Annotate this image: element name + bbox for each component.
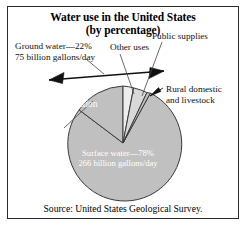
leader-arrow-rural-domestic: [150, 88, 161, 97]
label-ground-water-line-2: 75 billion gallons/day: [15, 52, 95, 63]
ground-water-bracket-arrow-right: [149, 68, 164, 79]
figure-source: Source: United States Geological Survey.: [8, 203, 238, 214]
label-ground-water: Ground water—22% 75 billion gallons/day: [15, 41, 95, 62]
label-irrigation: Irrigation: [62, 99, 97, 109]
pie-chart: [0, 0, 247, 229]
label-other-uses: Other uses: [110, 42, 149, 53]
figure-container: Water use in the United States (by perce…: [0, 0, 247, 229]
label-surface-water-line-2: 266 billion gallons/day: [58, 158, 178, 168]
label-rural-domestic: Rural domestic and livestock: [166, 84, 222, 105]
label-ground-water-line-1: Ground water—22%: [15, 41, 95, 52]
label-rural-line-2: and livestock: [166, 95, 222, 106]
label-surface-water-line-1: Surface water—78%: [58, 148, 178, 158]
label-public-supplies: Public supplies: [152, 31, 208, 42]
label-surface-water: Surface water—78% 266 billion gallons/da…: [58, 148, 178, 168]
ground-water-bracket-arrow-left: [49, 73, 64, 84]
label-rural-line-1: Rural domestic: [166, 84, 222, 95]
ground-water-bracket-line: [49, 71, 164, 80]
